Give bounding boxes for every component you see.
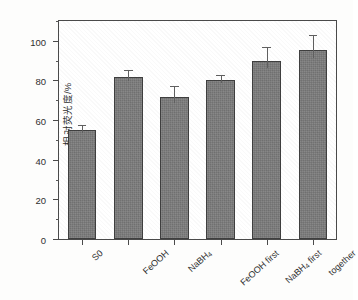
error-bar-cap [262,47,271,48]
x-tick [267,239,268,245]
y-tick-minor [56,61,60,62]
y-tick-minor [56,219,60,220]
y-tick-label: 20 [35,195,46,206]
bar-s0 [68,130,97,239]
y-tick-major: 80 [53,80,59,81]
paper-grain-overlay [59,21,336,239]
bar-feooh [114,77,143,239]
bar-feooh-first [206,80,235,239]
x-tick-label-feooh: FeOOH [141,248,171,276]
y-tick-major: 100 [53,41,59,42]
x-tick [128,239,129,245]
y-tick-minor [56,180,60,181]
x-tick [82,239,83,245]
error-bar-stem [313,35,314,58]
y-tick-major: 20 [53,199,59,200]
error-bar-cap [309,35,318,36]
error-bar-cap [216,75,225,76]
bar-nabh4 [160,97,189,239]
x-tick [174,239,175,245]
x-tick-label-nabh4: NaBH4 [187,248,214,274]
error-bar-cap [78,125,87,126]
error-bar-cap [170,86,179,87]
plot-area: 相对荧光度/% 020406080100S0FeOOHNaBH4FeOOH fi… [58,20,337,240]
y-tick-label: 80 [35,76,46,87]
y-tick-label: 100 [30,36,46,47]
bar-nabh4-first [252,61,281,239]
y-tick-major: 40 [53,160,59,161]
y-tick-label: 40 [35,155,46,166]
error-bar-stem [174,86,175,103]
y-tick-label: 0 [41,235,46,246]
y-tick-label: 60 [35,116,46,127]
y-tick-minor [56,21,60,22]
error-bar-stem [128,70,129,81]
bar-together [299,50,328,239]
error-bar-cap [124,70,133,71]
error-bar-stem [267,47,268,69]
error-bar-stem [221,75,222,82]
error-bar-stem [82,125,83,134]
y-tick-major: 60 [53,120,59,121]
x-tick-label-nabh4-first: NaBH4 first [283,248,323,285]
x-tick-label-s0: S0 [90,248,105,263]
x-tick [313,239,314,245]
x-tick-label-feooh-first: FeOOH first [238,248,280,288]
x-tick-label-together: together [326,248,357,278]
y-tick-minor [56,100,60,101]
y-tick-major: 0 [53,239,59,240]
y-tick-minor [56,140,60,141]
x-tick [221,239,222,245]
